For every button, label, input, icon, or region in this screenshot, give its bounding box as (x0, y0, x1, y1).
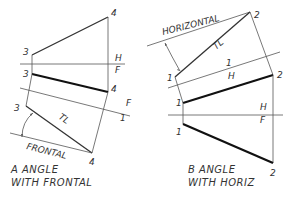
label-fold-1: 1 (120, 113, 126, 123)
label-3-front: 3 (23, 69, 29, 79)
diagram-canvas: 4 3 H F 3 4 F 1 3 TL FRONTAL 4 A ANGLE W… (0, 0, 293, 198)
label-3-aux: 3 (14, 103, 20, 113)
label-1-front: 1 (176, 127, 182, 137)
label-4-aux: 4 (89, 157, 95, 167)
angle-arc-b (165, 43, 180, 71)
label-fold-h-b: H (228, 71, 235, 81)
label-4-front: 4 (111, 84, 117, 94)
caption-a-line1: A ANGLE (10, 164, 59, 175)
label-f: F (115, 65, 121, 75)
label-2-top: 2 (277, 70, 283, 80)
label-1-aux: 1 (167, 73, 173, 83)
panel-b: HORIZONTAL 2 TL 1 1 H 2 1 H F 1 2 B ANGL… (147, 10, 283, 188)
label-2-front: 2 (270, 168, 276, 178)
front-view-line-1-2 (183, 124, 273, 163)
caption-b-line1: B ANGLE (188, 164, 236, 175)
caption-b-line2: WITH HORIZ (188, 177, 255, 188)
projector-aux-2 (250, 12, 273, 75)
panel-a: 4 3 H F 3 4 F 1 3 TL FRONTAL 4 A ANGLE W… (10, 8, 132, 188)
label-4-top: 4 (111, 8, 117, 18)
label-h-b: H (260, 102, 267, 112)
label-f-b: F (260, 115, 266, 125)
fold-line-1-h (168, 52, 280, 88)
label-3-top: 3 (23, 47, 29, 57)
label-tl-b: TL (211, 37, 225, 51)
label-fold-1-b: 1 (226, 58, 232, 68)
label-frontal: FRONTAL (26, 141, 68, 161)
projector-aux-4 (92, 92, 108, 153)
label-tl-a: TL (57, 111, 71, 125)
front-view-line-3-4 (32, 74, 108, 92)
label-1-top: 1 (176, 98, 182, 108)
top-view-line-3-4 (32, 17, 108, 55)
label-2-aux: 2 (254, 10, 260, 20)
angle-arc-a (22, 113, 33, 137)
label-h: H (115, 53, 122, 63)
caption-a-line2: WITH FRONTAL (11, 177, 92, 188)
label-fold-f: F (126, 98, 132, 108)
